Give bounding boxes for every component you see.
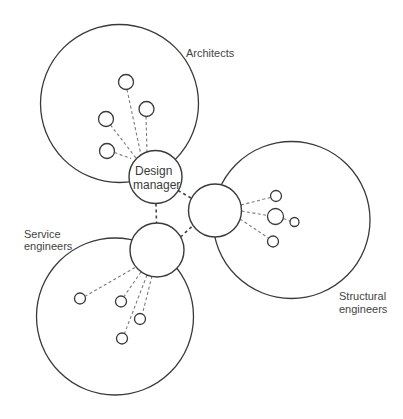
service-engineers-label: engineers — [24, 240, 73, 252]
structural-engineers-label: Structural — [339, 290, 386, 302]
service-node — [117, 333, 128, 344]
structural-node — [268, 209, 284, 225]
design-manager-label: manager — [133, 178, 180, 192]
architect-node — [139, 102, 154, 117]
service-hub — [130, 223, 184, 277]
service-to-structural-link — [181, 226, 194, 238]
service-node — [75, 293, 86, 304]
architect-node — [100, 144, 115, 159]
consultant-coordination-diagram: Design manager Architects Structural eng… — [0, 0, 403, 419]
service-node — [135, 314, 146, 325]
structural-node — [271, 191, 282, 202]
architect-node — [99, 112, 114, 127]
structural-hub — [189, 184, 242, 237]
service-engineers-label: Service — [24, 228, 61, 240]
design-manager-label: Design — [135, 164, 172, 178]
architects-label: Architects — [186, 47, 235, 59]
structural-node — [290, 218, 299, 227]
architect-node — [119, 75, 134, 90]
service-node — [116, 296, 127, 307]
structural-node — [268, 236, 279, 247]
design-to-service-link — [156, 204, 157, 224]
structural-engineers-label: engineers — [339, 303, 388, 315]
